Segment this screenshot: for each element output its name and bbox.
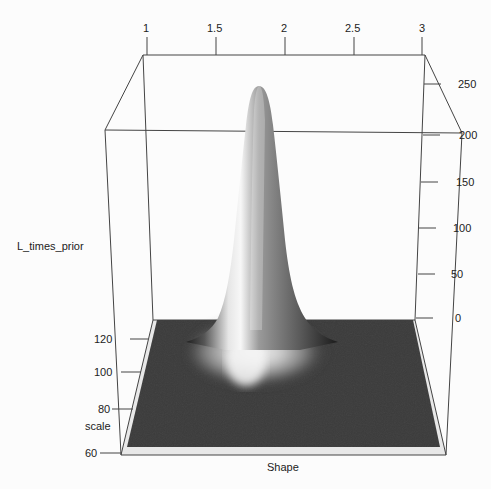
z-tick-label: 200 (459, 129, 477, 141)
y-tick-label: 60 (85, 447, 97, 459)
y-tick-label: 120 (94, 333, 112, 345)
z-tick-label: 100 (453, 222, 471, 234)
y-tick-label: 80 (98, 403, 110, 415)
surface-plot: 1 1.5 2 2.5 3 0 50 100 150 200 250 60 80… (0, 0, 491, 489)
x-axis-title: Shape (267, 461, 299, 473)
z-tick-label: 50 (451, 268, 463, 280)
x-tick-label: 1 (143, 22, 149, 34)
y-tick-label: 100 (94, 366, 112, 378)
y-axis-title: scale (85, 420, 111, 432)
z-tick-label: 150 (456, 176, 474, 188)
box-front-top-edge (105, 130, 462, 133)
x-tick-label: 3 (419, 22, 425, 34)
x-tick-label: 2.5 (345, 22, 360, 34)
x-tick-label: 1.5 (207, 22, 222, 34)
x-tick-label: 2 (281, 22, 287, 34)
x-axis-ticks (147, 37, 422, 55)
z-axis-title: L_times_prior (17, 240, 84, 252)
z-tick-label: 0 (455, 312, 461, 324)
z-tick-label: 250 (458, 78, 476, 90)
